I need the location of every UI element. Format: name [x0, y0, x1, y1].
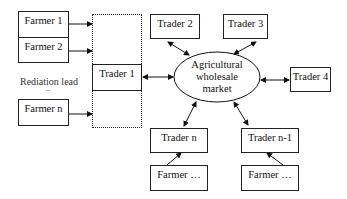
farmer-2-box: Farmer 2 [18, 37, 69, 63]
market-label-line2: wholesale [177, 71, 257, 83]
market-label: Agricultural wholesale market [177, 59, 257, 95]
market-label-line3: market [177, 83, 257, 95]
ellipsis-label: ... [38, 86, 58, 92]
trader-n-1-box: Trader n-1 [241, 128, 299, 153]
trader-n-box: Trader n [150, 128, 208, 153]
market-label-line1: Agricultural [177, 59, 257, 71]
trader-4-box: Trader 4 [290, 67, 331, 92]
farmer-bottom-right-box: Farmer … [241, 165, 299, 191]
trader-3-box: Trader 3 [223, 14, 268, 39]
farmer-n-box: Farmer n [18, 99, 69, 126]
trader-2-box: Trader 2 [150, 14, 200, 39]
farmer-1-box: Farmer 1 [18, 11, 69, 38]
farmer-bottom-left-box: Farmer … [150, 165, 208, 191]
trader-1-box: Trader 1 [92, 64, 142, 91]
